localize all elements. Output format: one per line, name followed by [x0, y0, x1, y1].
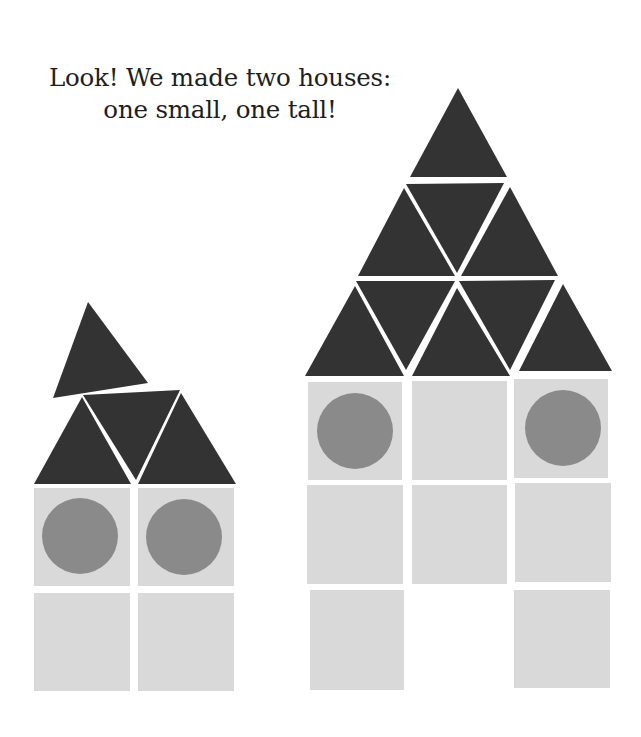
triangle-roof-piece — [410, 88, 507, 177]
square-block — [310, 590, 404, 690]
square-block — [34, 593, 130, 691]
circle-window — [42, 498, 118, 574]
square-block — [307, 485, 403, 584]
square-block — [515, 483, 611, 582]
circle-window — [146, 499, 222, 575]
tall-house — [305, 88, 612, 690]
square-block — [412, 381, 507, 480]
triangle-roof-piece — [53, 302, 148, 398]
square-block — [412, 485, 507, 584]
square-block — [138, 593, 234, 691]
square-block — [514, 590, 610, 688]
small-house — [34, 302, 236, 691]
houses-illustration — [0, 0, 641, 737]
circle-window — [525, 390, 601, 466]
circle-window — [317, 393, 393, 469]
